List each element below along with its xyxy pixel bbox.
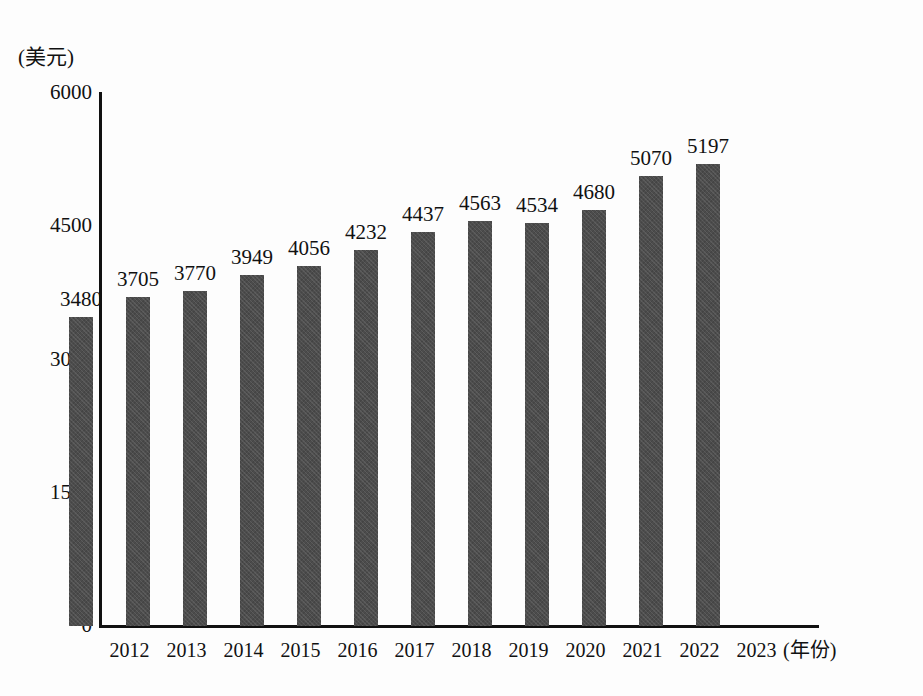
bar xyxy=(411,232,435,626)
x-axis-tick-labels: 2012201320142015201620172018201920202021… xyxy=(100,638,860,678)
bar-value-label: 4563 xyxy=(448,193,512,214)
x-tick-label: 2017 xyxy=(386,638,443,662)
bar-value-label: 4232 xyxy=(334,222,398,243)
x-tick-label: 2015 xyxy=(272,638,329,662)
x-tick-label: 2014 xyxy=(215,638,272,662)
bar xyxy=(240,275,264,626)
bar-group: 5070 xyxy=(622,93,679,626)
bar-value-label: 3770 xyxy=(163,263,227,284)
bar xyxy=(297,266,321,626)
bar xyxy=(639,176,663,626)
bar-group: 3949 xyxy=(223,93,280,626)
bar xyxy=(354,250,378,626)
bar-group: 3705 xyxy=(109,93,166,626)
bar-group: 4534 xyxy=(508,93,565,626)
bar-group: 3770 xyxy=(166,93,223,626)
bar-group: 4437 xyxy=(394,93,451,626)
bar-group: 4056 xyxy=(280,93,337,626)
x-tick-label: 2021 xyxy=(614,638,671,662)
bar xyxy=(525,223,549,626)
plot-area: 3480370537703949405642324437456345344680… xyxy=(100,93,818,626)
x-tick-label: 2019 xyxy=(500,638,557,662)
bar xyxy=(582,210,606,626)
x-tick-label: 2020 xyxy=(557,638,614,662)
bar-group: 4563 xyxy=(451,93,508,626)
x-tick-label: 2016 xyxy=(329,638,386,662)
bar-value-label: 4680 xyxy=(562,182,626,203)
bar-value-label: 5197 xyxy=(676,136,740,157)
bar xyxy=(183,291,207,626)
bar xyxy=(69,317,93,626)
bar xyxy=(696,164,720,626)
bar-value-label: 5070 xyxy=(619,148,683,169)
bar-value-label: 4437 xyxy=(391,204,455,225)
bar-value-label: 4534 xyxy=(505,195,569,216)
x-axis-unit-label: (年份) xyxy=(783,638,836,662)
bar-group: 4680 xyxy=(565,93,622,626)
bar-value-label: 3705 xyxy=(106,269,170,290)
bar-group: 3480 xyxy=(52,93,109,626)
x-tick-label: 2022 xyxy=(671,638,728,662)
bar-value-label: 3480 xyxy=(49,289,113,310)
bar-group: 5197 xyxy=(679,93,736,626)
bar-chart-figure: (美元) 01500300045006000 34803705377039494… xyxy=(0,0,923,696)
bar-value-label: 4056 xyxy=(277,238,341,259)
bar xyxy=(468,221,492,626)
bar-value-label: 3949 xyxy=(220,247,284,268)
x-tick-label: 2013 xyxy=(158,638,215,662)
x-tick-label: 2018 xyxy=(443,638,500,662)
x-tick-label: 2023 xyxy=(728,638,785,662)
bar xyxy=(126,297,150,626)
bar-group: 4232 xyxy=(337,93,394,626)
x-tick-label: 2012 xyxy=(101,638,158,662)
